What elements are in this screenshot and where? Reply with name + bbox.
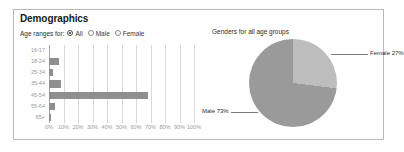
radio-option-male[interactable]: Male [88, 30, 110, 37]
bar-chart-y-tick-label: 16-17 [31, 45, 45, 56]
bar-chart-y-tick-label: 65+ [36, 112, 45, 123]
bar-chart-x-axis-labels: 0%10%20%30%40%50%60%70%80%90%100% [49, 124, 194, 134]
bar-chart-y-tick-label: 35-44 [31, 78, 45, 89]
page-title: Demographics [20, 13, 88, 24]
bar-chart-x-tick-label: 20% [72, 124, 83, 130]
radio-button-icon[interactable] [115, 30, 121, 36]
pie-chart-circle [249, 39, 337, 127]
bar-chart-x-tick-label: 40% [101, 124, 112, 130]
demographics-panel: Demographics Age ranges for: All Male Fe… [13, 9, 384, 140]
age-range-filter-group: Age ranges for: All Male Female [20, 28, 149, 38]
bar-row[interactable] [49, 45, 194, 56]
bar-row[interactable] [49, 112, 194, 123]
bar-chart-x-tick-label: 50% [116, 124, 127, 130]
bar-fill [49, 80, 61, 87]
pie-leader-line-female [331, 54, 368, 55]
radio-button-icon[interactable] [88, 30, 94, 36]
bar-fill [49, 69, 53, 76]
bar-fill [49, 58, 59, 65]
bar-chart-y-tick-label: 18-24 [31, 56, 45, 67]
bar-chart-x-tick-label: 30% [87, 124, 98, 130]
pie-leader-line-male [231, 112, 258, 113]
bar-chart-x-tick-label: 90% [174, 124, 185, 130]
bar-chart-x-tick-label: 0% [45, 124, 53, 130]
radio-label-all: All [75, 30, 82, 37]
genders-pie-chart: Genders for all age groups Female 27% Ma… [200, 26, 384, 138]
radio-label-female: Female [123, 30, 145, 37]
bar-chart-plot-area [49, 45, 194, 123]
pie-label-male: Male 73% [202, 108, 229, 114]
bar-chart-x-tick-label: 80% [159, 124, 170, 130]
bar-chart-y-tick-label: 25-34 [31, 67, 45, 78]
bar-chart-y-tick-label: 55-64 [31, 101, 45, 112]
bar-row[interactable] [49, 101, 194, 112]
bar-chart-x-tick-label: 60% [130, 124, 141, 130]
bar-row[interactable] [49, 90, 194, 101]
bar-chart-y-tick-label: 45-54 [31, 90, 45, 101]
bar-fill [49, 114, 51, 121]
bar-row[interactable] [49, 56, 194, 67]
bar-chart-x-tick-label: 70% [145, 124, 156, 130]
radio-option-all[interactable]: All [67, 30, 82, 37]
pie-chart-title: Genders for all age groups [212, 28, 289, 35]
bar-fill [49, 92, 148, 99]
age-ranges-bar-chart: 16-1718-2425-3435-4445-5455-6465+ 0%10%2… [18, 43, 198, 137]
bar-chart-x-tick-label: 100% [187, 124, 201, 130]
bar-row[interactable] [49, 78, 194, 89]
bar-chart-series [49, 45, 194, 123]
radio-button-icon[interactable] [67, 30, 73, 36]
gridline [194, 45, 195, 123]
bar-fill [49, 103, 55, 110]
bar-chart-x-tick-label: 10% [58, 124, 69, 130]
bar-row[interactable] [49, 67, 194, 78]
pie-label-female: Female 27% [370, 50, 404, 56]
radio-option-female[interactable]: Female [115, 30, 145, 37]
age-range-filter-label: Age ranges for: [20, 30, 64, 37]
radio-label-male: Male [96, 30, 110, 37]
bar-chart-y-axis-labels: 16-1718-2425-3435-4445-5455-6465+ [18, 45, 47, 123]
